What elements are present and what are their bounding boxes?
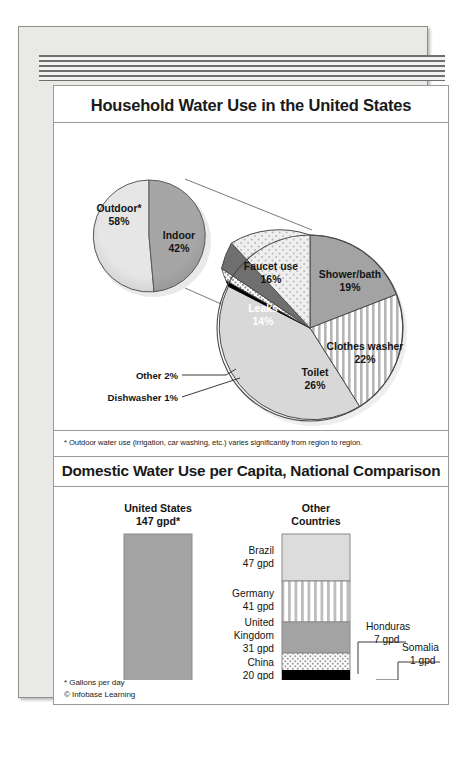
large-pie-value-shower: 19% [340,282,361,293]
bar-label-germany: Germany [232,588,275,599]
large-pie-label-toilet: Toilet [302,367,329,378]
small-pie-label-outdoor: Outdoor* [96,203,142,214]
bar-segment-united-kingdom [282,622,350,653]
poster-frame: Household Water Use in the United States [18,26,428,698]
bar-segment-germany [282,581,350,622]
bar-label-uk-1: United [245,617,275,628]
large-pie-value-toilet: 26% [305,380,326,391]
copyright-notice: © Infobase Learning [64,690,135,699]
bar-heading-other-1: Other [302,502,330,514]
divider-panel2-bottom [54,486,448,487]
bar-label-china: China [247,657,274,668]
large-pie-value-leaks: 14% [253,316,274,327]
bar-united-states [124,534,192,680]
bar-label-somalia: Somalia [402,642,439,653]
callout-line-honduras [358,642,406,674]
bar-segment-bottom-black [282,670,350,680]
bar-value-china: 20 gpd [243,670,274,680]
page-title-percapita: Domestic Water Use per Capita, National … [54,462,448,480]
bar-chart-group: United States 147 gpd* Other Countries B… [54,490,450,680]
divider-panel2-top [54,456,448,457]
large-pie-label-shower: Shower/bath [319,269,381,280]
bar-label-honduras: Honduras [366,621,410,632]
bar-value-germany: 41 gpd [243,601,274,612]
bar-value-uk: 31 gpd [243,643,274,654]
page-title-household: Household Water Use in the United States [54,96,448,115]
bar-value-somalia: 1 gpd [410,655,436,666]
pie-chart-group: Outdoor* 58% Indoor 42% [54,126,450,426]
small-pie: Outdoor* 58% Indoor 42% [93,180,211,297]
callout-line-dishwasher [182,378,240,397]
divider-top [54,122,448,123]
infographic-canvas: Household Water Use in the United States [53,85,449,705]
footnote-gallons-per-day: * Gallons per day [64,678,125,687]
small-pie-value-outdoor: 58% [109,216,130,227]
divider-mid [54,430,448,431]
callout-dishwasher: Dishwasher 1% [108,392,179,403]
small-pie-value-indoor: 42% [169,243,190,254]
large-pie-value-clothes-washer: 22% [355,354,376,365]
large-pie-label-faucet: Faucet use [244,261,299,272]
callout-other: Other 2% [136,370,179,381]
small-pie-label-indoor: Indoor [163,230,195,241]
bar-value-united-states: 147 gpd* [136,515,181,527]
footnote-outdoor: * Outdoor water use (irrigation, car was… [64,438,362,447]
decorative-stripe-band [39,55,445,81]
bar-stack-other-countries [282,534,350,680]
pie-callouts: Other 2% Dishwasher 1% [108,369,240,403]
bar-heading-other-2: Countries [291,515,341,527]
large-pie: Shower/bath 19% Clothes washer 22% Toile… [217,230,407,426]
bar-label-brazil: Brazil [249,545,274,556]
bar-heading-united-states: United States [124,502,192,514]
large-pie-value-faucet: 16% [261,274,282,285]
bar-segment-brazil [282,534,350,581]
large-pie-label-leaks: Leaks [248,303,278,314]
bar-value-brazil: 47 gpd [243,558,274,569]
large-pie-label-clothes-washer: Clothes washer [327,341,404,352]
bar-label-uk-2: Kingdom [234,630,274,641]
bar-value-honduras: 7 gpd [374,634,400,645]
